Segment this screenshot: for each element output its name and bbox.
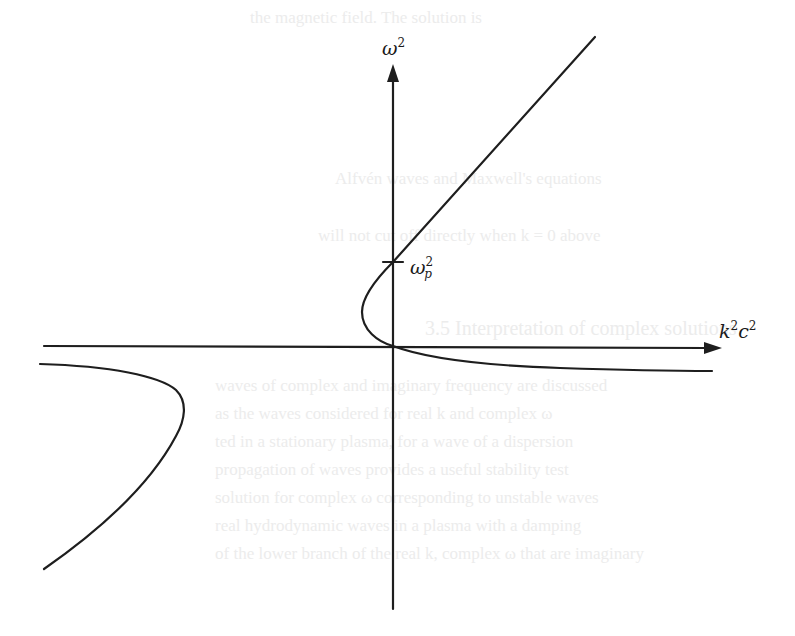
omega-p-label: ω2p	[410, 256, 432, 280]
x-axis-label-k-sup: 2	[731, 319, 739, 333]
bulge-curve	[362, 262, 393, 346]
y-axis-label-base: ω	[382, 37, 398, 59]
y-axis-label: ω2	[382, 37, 405, 58]
x-axis	[44, 346, 706, 348]
y-axis-label-sup: 2	[398, 36, 406, 50]
x-axis-label-c-sup: 2	[749, 319, 757, 333]
left-hyperbola-branch-curve	[40, 364, 184, 569]
dispersion-diagram	[0, 0, 795, 636]
upper-branch-curve	[393, 37, 595, 262]
y-axis-arrow-icon	[387, 64, 399, 82]
x-axis-label-c: c	[738, 320, 749, 342]
omega-p-label-sub: p	[424, 267, 432, 281]
x-axis-label: k2c2	[719, 320, 756, 341]
x-axis-arrow-icon	[704, 342, 722, 354]
x-axis-label-k: k	[719, 320, 731, 342]
lower-right-branch-curve	[393, 346, 712, 371]
